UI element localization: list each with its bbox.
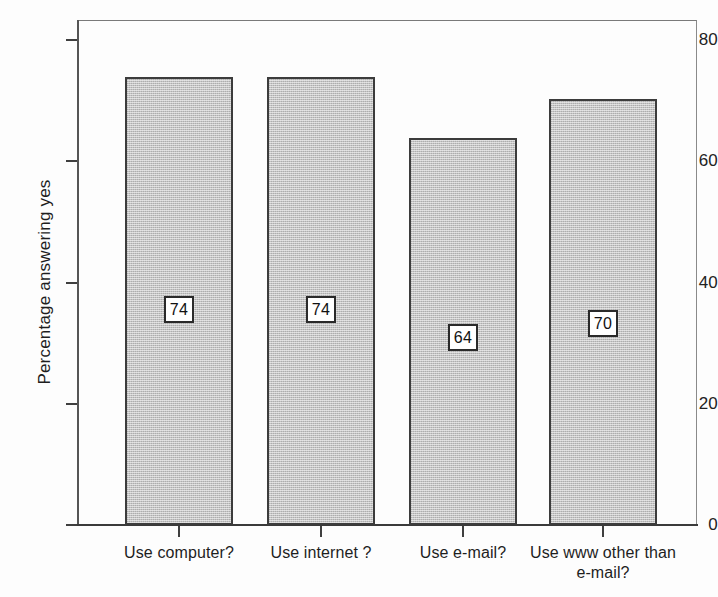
x-tick-mark-use-internet xyxy=(320,526,322,537)
value-label-use-internet: 74 xyxy=(306,296,336,323)
x-tick-label-use-internet-line1: Use internet ? xyxy=(241,543,401,563)
x-tick-mark-use-email xyxy=(462,526,464,537)
y-tick-mark-20 xyxy=(66,403,77,405)
y-axis-title: Percentage answering yes xyxy=(35,152,55,412)
x-tick-label-use-computer-line1: Use computer? xyxy=(99,543,259,563)
y-axis-line xyxy=(77,20,79,526)
x-tick-label-use-www-line2: e-mail? xyxy=(518,563,688,583)
y-tick-mark-40 xyxy=(66,282,77,284)
value-label-use-computer: 74 xyxy=(164,296,194,323)
y-tick-mark-0 xyxy=(66,524,77,526)
y-tick-mark-60 xyxy=(66,160,77,162)
x-tick-label-use-www-line1: Use www other than xyxy=(518,543,688,563)
x-tick-label-use-computer: Use computer? xyxy=(99,543,259,563)
y-tick-mark-80 xyxy=(66,39,77,41)
value-label-use-www: 70 xyxy=(588,310,618,337)
x-tick-mark-use-www xyxy=(602,526,604,537)
y-tick-label-20: 20 xyxy=(662,394,718,414)
y-tick-label-60: 60 xyxy=(662,151,718,171)
x-tick-label-use-www: Use www other than e-mail? xyxy=(518,543,688,584)
bar-chart-figure: Percentage answering yes 80 60 40 20 0 7… xyxy=(0,0,718,597)
x-tick-label-use-internet: Use internet ? xyxy=(241,543,401,563)
y-tick-label-0: 0 xyxy=(662,515,718,535)
y-tick-label-40: 40 xyxy=(662,273,718,293)
value-label-use-email: 64 xyxy=(448,324,478,351)
x-tick-mark-use-computer xyxy=(178,526,180,537)
y-tick-label-80: 80 xyxy=(662,30,718,50)
